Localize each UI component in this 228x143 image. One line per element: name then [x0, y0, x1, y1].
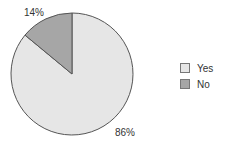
legend-item-yes: Yes [180, 60, 213, 76]
legend-swatch-yes [180, 63, 190, 73]
legend-label-yes: Yes [197, 63, 213, 74]
legend: Yes No [180, 60, 213, 92]
slice-label-no: 14% [24, 7, 44, 18]
legend-swatch-no [180, 79, 190, 89]
slice-label-yes: 86% [115, 127, 135, 138]
legend-label-no: No [197, 79, 210, 90]
legend-item-no: No [180, 76, 213, 92]
